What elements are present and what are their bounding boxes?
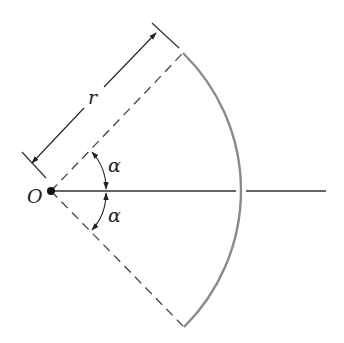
origin-label: O — [27, 185, 43, 207]
radius-dimension-line-upper — [104, 33, 156, 87]
lower-angle-arc — [92, 193, 106, 230]
sector-arc-smooth — [183, 53, 241, 327]
radius-label: r — [88, 86, 99, 108]
extension-line-top — [152, 23, 179, 48]
lower-angle-label: α — [108, 204, 121, 226]
origin-point — [47, 187, 55, 195]
sector-diagram: r α α O — [0, 0, 344, 343]
radius-dimension-line-lower — [32, 108, 84, 163]
upper-angle-label: α — [108, 154, 121, 176]
extension-line-bottom — [22, 152, 46, 178]
upper-angle-arc — [92, 152, 106, 189]
